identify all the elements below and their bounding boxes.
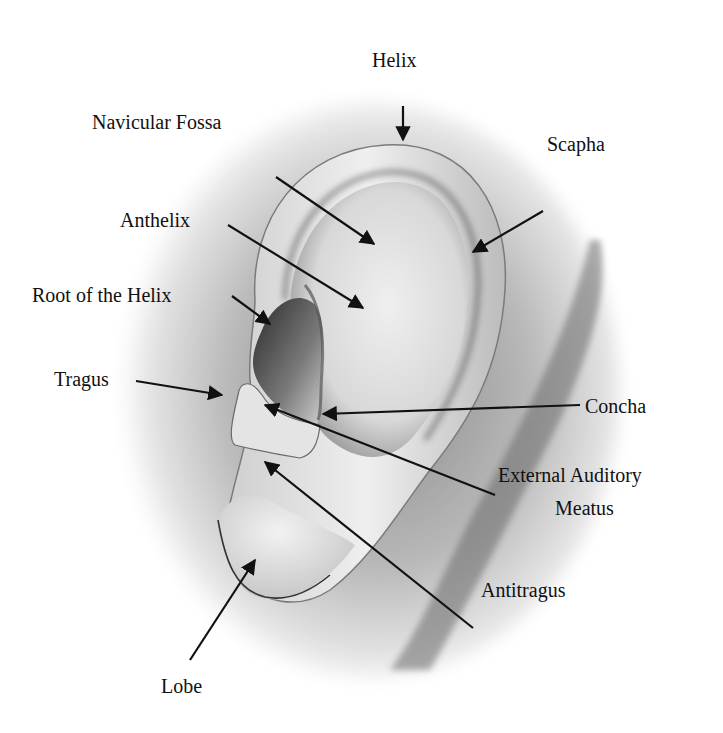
label-external-auditory-meatus-line1: External Auditory <box>498 465 642 485</box>
ear-anatomy-diagram: Helix Navicular Fossa Scapha Anthelix Ro… <box>0 0 723 733</box>
label-anthelix: Anthelix <box>120 210 190 230</box>
label-external-auditory-meatus-line2: Meatus <box>555 498 614 518</box>
label-helix: Helix <box>372 50 416 70</box>
label-antitragus: Antitragus <box>481 580 565 600</box>
ear-illustration <box>0 0 723 733</box>
label-lobe: Lobe <box>161 676 202 696</box>
label-navicular-fossa: Navicular Fossa <box>92 112 221 132</box>
label-root-of-helix: Root of the Helix <box>32 285 171 305</box>
label-tragus: Tragus <box>54 369 109 389</box>
label-scapha: Scapha <box>547 134 605 154</box>
label-concha: Concha <box>585 396 646 416</box>
